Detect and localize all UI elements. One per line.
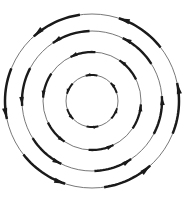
arrow-head bbox=[93, 126, 98, 129]
field-arrow bbox=[94, 159, 131, 171]
field-arrow bbox=[119, 60, 136, 79]
arrow-head bbox=[106, 145, 113, 150]
field-arrow bbox=[86, 73, 98, 76]
arrow-shaft bbox=[33, 138, 62, 164]
arrow-head bbox=[177, 83, 182, 94]
field-arrow bbox=[133, 104, 143, 128]
arrow-head bbox=[119, 18, 130, 24]
field-arrow bbox=[23, 155, 65, 184]
arrow-head bbox=[54, 178, 65, 184]
field-arrow bbox=[154, 96, 165, 134]
arrow-shaft bbox=[119, 18, 161, 47]
field-arrow bbox=[53, 31, 90, 43]
arrow-head bbox=[71, 52, 78, 57]
field-arrow bbox=[111, 83, 117, 93]
field-arrow bbox=[19, 68, 30, 106]
arrow-shaft bbox=[154, 96, 162, 134]
arrow-head bbox=[53, 36, 62, 43]
field-arrow bbox=[48, 122, 65, 141]
field-arrow bbox=[123, 38, 152, 64]
field-arrow bbox=[33, 138, 62, 164]
arrow-head bbox=[2, 108, 7, 119]
field-arrow bbox=[119, 18, 161, 47]
field-arrow bbox=[111, 108, 117, 118]
streamline-ring bbox=[66, 75, 118, 127]
field-arrow bbox=[42, 74, 52, 98]
arrow-head bbox=[122, 159, 131, 166]
arrow-head bbox=[86, 73, 91, 76]
arrow-shaft bbox=[123, 38, 152, 64]
field-arrow bbox=[2, 68, 11, 119]
arrow-shaft bbox=[23, 155, 65, 184]
field-arrow bbox=[87, 126, 99, 129]
field-arrow bbox=[173, 83, 182, 134]
field-arrow bbox=[71, 52, 96, 57]
vector-field-figure bbox=[0, 0, 185, 207]
vector-field-canvas bbox=[0, 0, 185, 207]
arrow-shaft bbox=[22, 68, 30, 106]
field-arrow bbox=[89, 145, 114, 150]
field-arrow bbox=[67, 109, 73, 119]
field-arrow bbox=[67, 84, 73, 94]
